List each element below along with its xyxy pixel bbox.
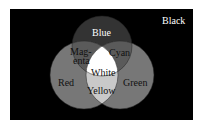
label-red: Red: [58, 77, 74, 88]
label-yellow: Yellow: [87, 85, 116, 96]
label-green: Green: [123, 77, 147, 88]
label-cyan: Cyan: [109, 47, 130, 58]
label-black: Black: [162, 15, 185, 26]
label-blue: Blue: [92, 27, 111, 38]
venn-diagram: Black Blue Mag- enta Cyan White Red Gree…: [0, 0, 204, 126]
label-white: White: [91, 67, 116, 78]
label-magenta-2: enta: [73, 55, 90, 66]
